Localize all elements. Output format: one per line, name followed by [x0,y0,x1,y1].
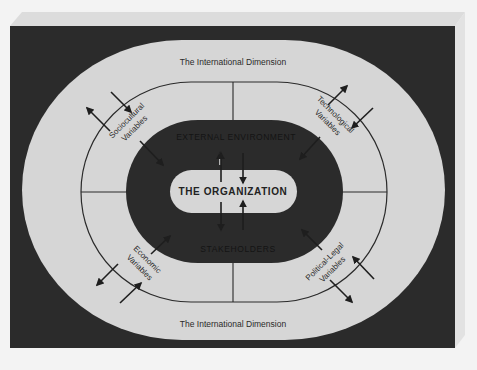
international-dimension-bottom-label: The International Dimension [180,319,287,329]
international-dimension-top-label: The International Dimension [180,57,287,67]
organization-label: THE ORGANIZATION [179,186,288,197]
stakeholders-label: STAKEHOLDERS [200,244,276,254]
diagram-canvas: The International Dimension The Internat… [0,0,477,370]
external-environment-label: EXTERNAL ENVIRONMENT [176,132,296,142]
